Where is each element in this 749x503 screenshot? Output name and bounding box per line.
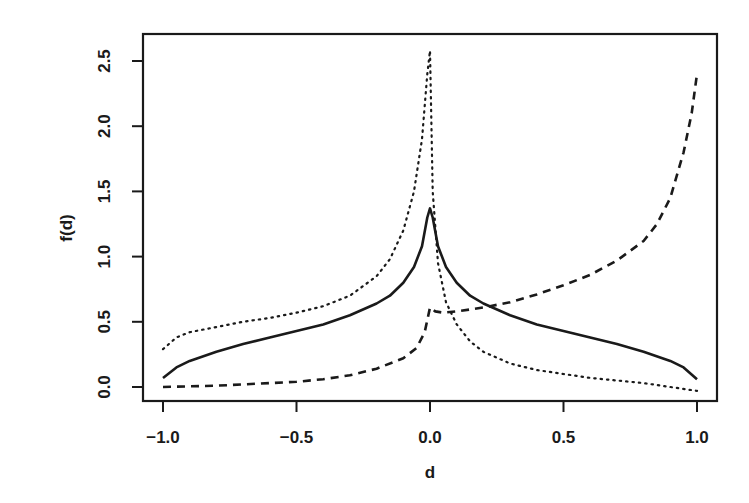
y-axis: 0.00.51.01.52.02.5 — [95, 49, 143, 399]
series-dotted-line — [163, 51, 697, 391]
y-tick-label: 0.0 — [95, 375, 114, 399]
series-dashed-line — [163, 74, 697, 387]
plot-frame — [143, 34, 717, 401]
y-axis-label: f(d) — [57, 214, 76, 241]
y-tick-label: 2.5 — [95, 49, 114, 73]
y-tick-label: 1.0 — [95, 245, 114, 269]
y-tick-label: 0.5 — [95, 310, 114, 334]
x-tick-label: 0.0 — [418, 428, 442, 447]
y-tick-label: 1.5 — [95, 180, 114, 204]
x-tick-label: 1.0 — [685, 428, 709, 447]
series-solid-line — [163, 208, 697, 379]
x-tick-label: 0.5 — [552, 428, 576, 447]
line-chart: 0.00.51.01.52.02.5 −1.0−0.50.00.51.0 d f… — [0, 0, 749, 503]
x-tick-label: −0.5 — [280, 428, 314, 447]
y-tick-label: 2.0 — [95, 114, 114, 138]
x-axis: −1.0−0.50.00.51.0 — [146, 401, 709, 447]
x-axis-label: d — [425, 463, 435, 482]
series-group — [163, 51, 697, 391]
x-tick-label: −1.0 — [146, 428, 180, 447]
